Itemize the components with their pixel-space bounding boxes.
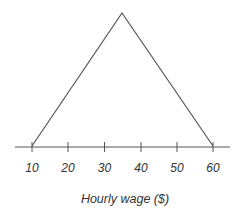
tick-label: 20	[60, 161, 75, 175]
tick-label: 60	[206, 161, 220, 175]
distribution-line	[32, 13, 213, 146]
x-axis-title: Hourly wage ($)	[81, 192, 169, 206]
tick-label: 30	[98, 161, 112, 175]
chart: 10 20 30 40 50 60 Hourly wage ($)	[0, 0, 241, 216]
tick-label: 10	[25, 161, 39, 175]
tick-label: 50	[170, 161, 184, 175]
tick-label: 40	[134, 161, 148, 175]
